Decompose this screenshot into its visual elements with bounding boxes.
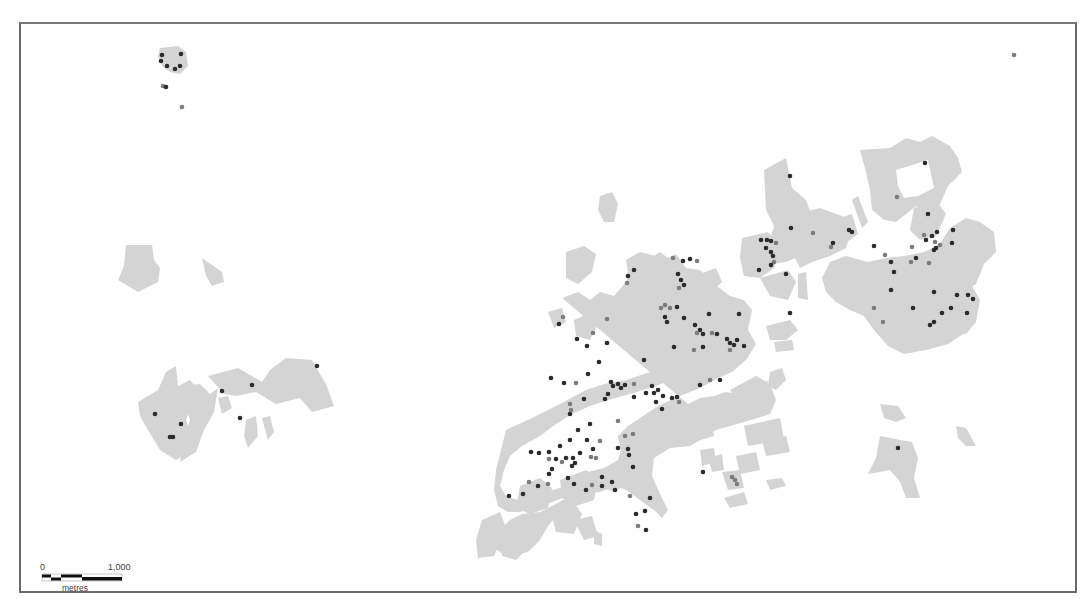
map-canvas[interactable] [0, 0, 1086, 610]
scale-end-label: 1,000 [108, 562, 131, 572]
parcels-layer [118, 46, 996, 560]
scale-unit-label: metres [62, 583, 88, 593]
scale-start-label: 0 [40, 562, 45, 572]
scale-bar [42, 574, 122, 581]
